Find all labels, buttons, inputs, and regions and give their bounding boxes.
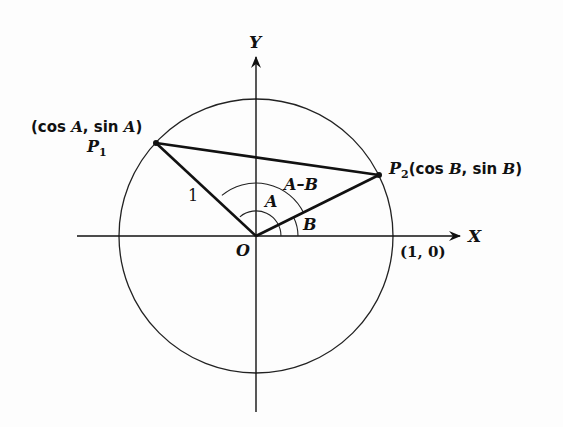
- p1-coordinate-label: (cos A, sin A): [31, 118, 142, 136]
- point-p1: [153, 140, 159, 146]
- unit-point-label: (1, 0): [400, 243, 446, 261]
- angle-arc-a: [240, 211, 281, 236]
- x-axis-label: X: [467, 226, 482, 246]
- unit-circle-diagram: Y X O (1, 0) (cos A, sin A) P1 P2(cos B,…: [0, 0, 563, 427]
- radius-length-label: 1: [188, 186, 198, 205]
- angle-a-minus-b-label: A–B: [282, 175, 318, 194]
- point-p2: [376, 172, 382, 178]
- origin-label: O: [236, 241, 250, 260]
- angle-b-label: B: [302, 215, 317, 234]
- angle-arc-b: [294, 218, 298, 236]
- angle-a-label: A: [263, 192, 277, 211]
- radius-op1: [156, 143, 256, 236]
- p2-label: P2(cos B, sin B): [388, 159, 522, 181]
- p1-label: P1: [86, 137, 107, 159]
- y-axis-label: Y: [249, 32, 263, 52]
- chord-p1-p2: [156, 143, 379, 175]
